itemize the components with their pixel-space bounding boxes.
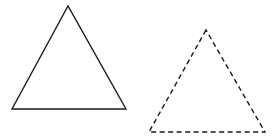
dashed-triangle [149, 30, 265, 132]
solid-triangle [12, 6, 126, 109]
triangles-diagram [0, 0, 273, 139]
